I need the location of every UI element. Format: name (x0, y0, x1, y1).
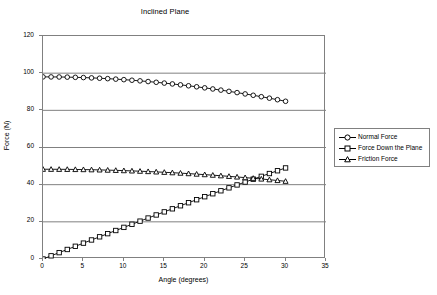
x-tick-mark (325, 258, 326, 261)
x-tick-label: 0 (30, 263, 54, 270)
plot-svg (43, 36, 326, 259)
x-tick-label: 5 (70, 263, 94, 270)
y-tick-label: 100 (8, 69, 34, 76)
y-tick-label: 80 (8, 106, 34, 113)
x-tick-mark (123, 258, 124, 261)
y-tick-label: 40 (8, 180, 34, 187)
y-tick-label: 0 (8, 255, 34, 262)
y-tick-mark (39, 221, 42, 222)
x-tick-mark (42, 258, 43, 261)
legend-item-friction-force: Friction Force (339, 154, 429, 165)
y-tick-mark (39, 184, 42, 185)
y-tick-mark (39, 35, 42, 36)
legend-label: Friction Force (358, 156, 398, 163)
x-tick-label: 20 (192, 263, 216, 270)
y-tick-label: 120 (8, 32, 34, 39)
y-tick-mark (39, 72, 42, 73)
x-tick-label: 15 (151, 263, 175, 270)
y-tick-label: 20 (8, 217, 34, 224)
legend-label: Normal Force (358, 134, 397, 141)
x-axis-label: Angle (degrees) (42, 276, 325, 283)
y-tick-label: 60 (8, 143, 34, 150)
x-tick-label: 25 (232, 263, 256, 270)
inclined-plane-chart: Inclined Plane 020406080100120 051015202… (0, 0, 437, 295)
x-tick-mark (82, 258, 83, 261)
legend-marker-circle-icon (339, 133, 356, 142)
legend-item-normal-force: Normal Force (339, 132, 429, 143)
x-tick-mark (163, 258, 164, 261)
x-tick-label: 35 (313, 263, 337, 270)
x-tick-label: 30 (273, 263, 297, 270)
plot-area (42, 35, 325, 258)
y-axis-label: Force (N) (3, 106, 10, 166)
x-tick-mark (285, 258, 286, 261)
legend-label: Force Down the Plane (358, 145, 422, 152)
legend-marker-square-icon (339, 144, 356, 153)
x-tick-label: 10 (111, 263, 135, 270)
legend-item-force-down-the-plane: Force Down the Plane (339, 143, 429, 154)
chart-title: Inclined Plane (0, 7, 330, 16)
x-tick-mark (244, 258, 245, 261)
y-tick-mark (39, 109, 42, 110)
y-tick-mark (39, 147, 42, 148)
x-tick-mark (204, 258, 205, 261)
legend-marker-triangle-icon (339, 155, 356, 164)
legend: Normal Force Force Down the Plane Fricti… (334, 128, 430, 167)
